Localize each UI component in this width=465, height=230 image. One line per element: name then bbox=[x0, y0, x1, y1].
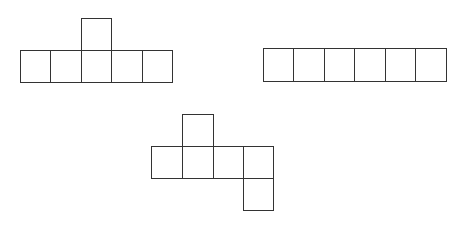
net-square bbox=[213, 146, 244, 179]
net-square bbox=[385, 48, 416, 82]
net-square bbox=[415, 48, 447, 82]
net-square bbox=[151, 146, 183, 179]
net-square bbox=[182, 146, 214, 179]
net-square bbox=[81, 50, 112, 83]
net-square bbox=[354, 48, 386, 82]
net-square bbox=[243, 178, 274, 211]
net-square bbox=[263, 48, 294, 82]
net-square bbox=[111, 50, 143, 83]
net-square bbox=[50, 50, 82, 83]
net-square bbox=[324, 48, 355, 82]
net-square bbox=[20, 50, 51, 83]
net-square bbox=[142, 50, 173, 83]
net-square bbox=[293, 48, 325, 82]
net-square bbox=[182, 114, 214, 147]
net-square bbox=[81, 18, 112, 51]
net-square bbox=[243, 146, 274, 179]
